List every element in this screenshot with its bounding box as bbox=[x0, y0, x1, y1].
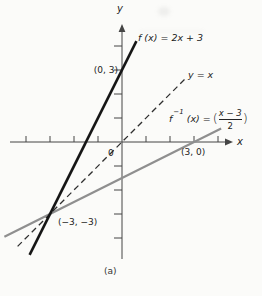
y-axis-label: y bbox=[117, 3, 123, 15]
f-inverse-exponent: −1 bbox=[173, 108, 183, 116]
f-function-label: f (x) = 2x + 3 bbox=[138, 33, 203, 44]
identity-line-label: y = x bbox=[188, 70, 213, 81]
fraction-bar bbox=[219, 119, 242, 120]
point-label-3-0: (3, 0) bbox=[181, 147, 205, 157]
f-inverse-symbol: f bbox=[169, 114, 172, 125]
origin-label: 0 bbox=[108, 148, 114, 158]
f-inverse-equals: (x) = bbox=[187, 114, 211, 125]
fraction: x − 32 bbox=[219, 109, 242, 130]
fraction-numerator: x − 3 bbox=[219, 109, 242, 118]
point-label-neg3-neg3: (−3, −3) bbox=[58, 217, 97, 227]
x-axis-label: x bbox=[237, 136, 243, 148]
scan-artifact bbox=[158, 7, 170, 16]
function-graph-figure: y x f (x) = 2x + 3 y = x f−1(x) =(x − 32… bbox=[0, 0, 262, 296]
f-inverse-function-label: f−1(x) =(x − 32) bbox=[169, 109, 248, 130]
plot-canvas bbox=[0, 0, 262, 296]
fraction-denominator: 2 bbox=[228, 122, 233, 131]
open-paren: ( bbox=[213, 112, 218, 127]
subfigure-caption: (a) bbox=[104, 266, 117, 276]
close-paren: ) bbox=[243, 112, 248, 127]
point-label-0-3: (0, 3) bbox=[90, 65, 118, 75]
